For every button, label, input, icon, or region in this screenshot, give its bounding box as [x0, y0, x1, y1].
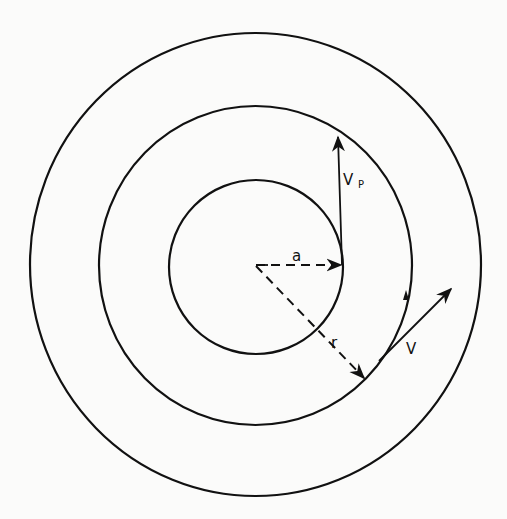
label-vp-main: V — [343, 171, 354, 189]
outer-circle — [30, 33, 481, 496]
radius-r-line — [256, 266, 364, 378]
diagram-canvas: a r V P V — [0, 0, 507, 519]
label-r: r — [331, 334, 338, 352]
middle-circle — [99, 106, 412, 425]
label-vp: V P — [343, 171, 364, 190]
label-a: a — [292, 247, 301, 265]
label-vp-sub: P — [358, 179, 364, 190]
diagram-figure: a r V P V — [0, 0, 507, 519]
label-v: V — [406, 340, 417, 358]
orbit-direction-arrow-icon — [403, 290, 409, 300]
